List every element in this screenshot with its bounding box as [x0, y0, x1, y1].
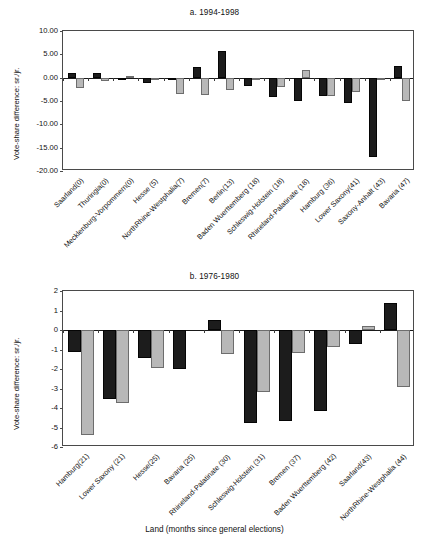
y-tick-label: -5: [51, 423, 58, 432]
bar-jr: [402, 78, 410, 101]
x-tick-label: Hamburg(21): [54, 452, 91, 489]
chart-b-y-axis-label: Vote-share difference: sr./jr.: [12, 338, 21, 430]
y-tick-mark: [60, 54, 63, 55]
bar-sr: [168, 78, 176, 80]
bar-jr: [81, 330, 94, 435]
x-tick-mark: [204, 330, 205, 333]
x-tick-label: NorthRhine-Westphalia (44): [338, 452, 408, 522]
x-tick-mark: [214, 78, 215, 81]
y-tick-mark: [60, 350, 63, 351]
x-tick-label: Hesse(25): [131, 452, 161, 482]
y-tick-label: 0.00: [43, 73, 58, 82]
y-tick-mark: [60, 447, 63, 448]
x-tick-mark: [380, 330, 381, 333]
x-tick-label: Rhineland-Palatinate (30): [167, 452, 232, 517]
x-tick-mark: [309, 330, 310, 333]
x-tick-mark: [345, 330, 346, 333]
y-tick-label: -20.00: [36, 166, 58, 175]
bar-sr: [68, 73, 76, 78]
figure-vote-share-difference: a. 1994-1998 Vote-share difference: sr./…: [0, 0, 429, 551]
bar-sr: [244, 78, 252, 86]
bar-jr: [76, 78, 84, 88]
y-tick-label: 0: [54, 325, 58, 334]
y-tick-label: 10.00: [39, 26, 58, 35]
x-tick-label: Saarland(43): [337, 452, 373, 488]
x-tick-label: Bavaria (25): [162, 452, 196, 486]
bar-jr: [327, 78, 335, 97]
bar-sr: [369, 78, 377, 158]
chart-b-plot-area: 210-1-2-3-4-5-6: [62, 290, 414, 446]
x-tick-mark: [264, 78, 265, 81]
bar-sr: [344, 78, 352, 103]
bar-sr: [349, 330, 362, 344]
bar-sr: [384, 303, 397, 330]
bar-sr: [244, 330, 257, 423]
bar-jr: [151, 78, 159, 80]
y-tick-label: 2: [54, 286, 58, 295]
x-tick-mark: [239, 78, 240, 81]
bar-jr: [151, 330, 164, 368]
bar-jr: [221, 330, 234, 354]
chart-a-plot-area: 10.005.000.00-5.00-10.00-15.00-20.00: [62, 30, 414, 170]
x-tick-mark: [113, 78, 114, 81]
bar-jr: [252, 78, 260, 80]
y-tick-label: -2: [51, 364, 58, 373]
bar-jr: [101, 78, 109, 82]
bar-jr: [302, 70, 310, 78]
bar-jr: [226, 78, 234, 91]
x-tick-mark: [98, 330, 99, 333]
y-tick-mark: [60, 408, 63, 409]
x-tick-label: Baden Wuerttemberg (42): [272, 452, 338, 518]
bar-jr: [201, 78, 209, 96]
y-tick-label: -1: [51, 345, 58, 354]
x-tick-mark: [390, 78, 391, 81]
x-tick-mark: [169, 330, 170, 333]
bar-sr: [279, 330, 292, 421]
bar-jr: [116, 330, 129, 403]
x-tick-mark: [289, 78, 290, 81]
bar-jr: [397, 330, 410, 387]
bar-jr: [327, 330, 340, 347]
bar-sr: [314, 330, 327, 411]
chart-b-x-axis-title: Land (months since general elections): [0, 525, 429, 534]
y-tick-label: -10.00: [36, 119, 58, 128]
x-tick-mark: [63, 78, 64, 81]
y-tick-label: -3: [51, 384, 58, 393]
bar-jr: [352, 78, 360, 92]
y-tick-label: 5.00: [43, 49, 58, 58]
x-tick-label: Bremen (37): [267, 452, 302, 487]
bar-sr: [138, 330, 151, 358]
x-tick-mark: [365, 78, 366, 81]
bar-sr: [319, 78, 327, 96]
bar-sr: [208, 320, 221, 330]
bar-sr: [93, 73, 101, 78]
y-tick-label: -6: [51, 442, 58, 451]
y-tick-mark: [60, 311, 63, 312]
x-tick-mark: [314, 78, 315, 81]
y-tick-mark: [60, 369, 63, 370]
y-tick-mark: [60, 428, 63, 429]
y-tick-label: -5.00: [41, 96, 58, 105]
y-tick-label: -4: [51, 403, 58, 412]
bar-sr: [173, 330, 186, 369]
bar-sr: [118, 78, 126, 81]
bar-jr: [176, 78, 184, 94]
y-tick-mark: [60, 291, 63, 292]
bar-jr: [257, 330, 270, 392]
bar-jr: [292, 330, 305, 353]
x-tick-mark: [88, 78, 89, 81]
chart-a-y-axis-label: Vote-share difference: sr./jr.: [12, 68, 21, 160]
y-tick-label: -15.00: [36, 143, 58, 152]
bar-sr: [218, 51, 226, 78]
y-tick-mark: [60, 389, 63, 390]
chart-a-title: a. 1994-1998: [0, 8, 429, 17]
y-tick-mark: [60, 171, 63, 172]
bar-sr: [143, 78, 151, 84]
bar-sr: [394, 66, 402, 78]
bar-jr: [126, 76, 134, 78]
bar-sr: [103, 330, 116, 399]
y-tick-mark: [60, 124, 63, 125]
bar-sr: [269, 78, 277, 98]
x-tick-mark: [189, 78, 190, 81]
bar-sr: [294, 78, 302, 101]
